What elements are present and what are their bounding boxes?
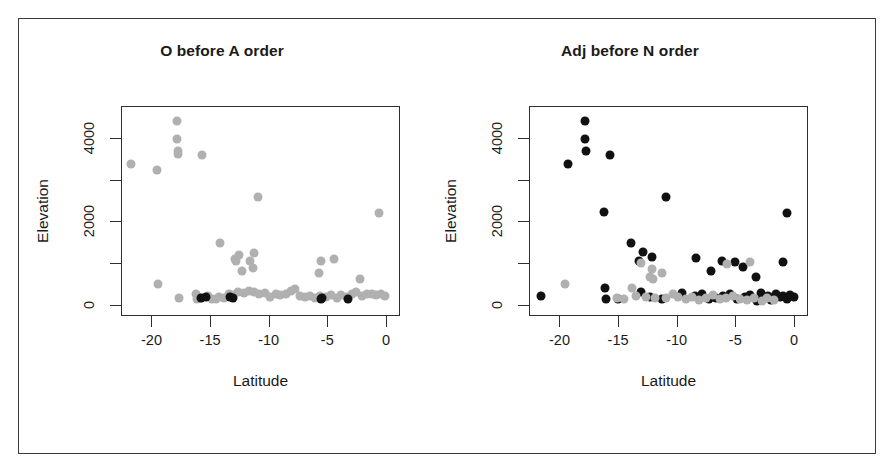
y-axis-tick-label-text: 2000 <box>81 205 97 237</box>
data-point <box>253 192 262 201</box>
panel-title: Adj before N order <box>430 42 830 60</box>
data-point <box>249 263 258 272</box>
data-point <box>175 293 184 302</box>
data-point <box>237 266 246 275</box>
y-axis-tick <box>518 305 529 306</box>
data-point <box>229 293 238 302</box>
y-axis-tick <box>110 263 121 264</box>
data-point <box>605 150 614 159</box>
data-point <box>651 294 660 303</box>
data-point <box>706 266 715 275</box>
data-point <box>627 284 636 293</box>
x-axis-tick-label: 0 <box>382 332 390 348</box>
data-point <box>563 159 572 168</box>
data-point <box>779 258 788 267</box>
data-point <box>649 275 658 284</box>
plot-area <box>121 106 400 316</box>
data-point <box>581 134 590 143</box>
data-point <box>619 295 628 304</box>
data-point <box>355 275 364 284</box>
y-axis-tick-label-text: 4000 <box>81 122 97 154</box>
data-point <box>314 269 323 278</box>
y-axis-tick <box>110 180 121 181</box>
x-axis-tick <box>269 316 270 327</box>
data-point <box>374 209 383 218</box>
data-point <box>561 279 570 288</box>
data-point <box>173 134 182 143</box>
x-axis-tick-label: -15 <box>608 332 629 348</box>
data-point <box>250 249 259 258</box>
data-point <box>642 292 651 301</box>
data-point <box>647 252 656 261</box>
data-point <box>344 295 353 304</box>
y-axis-tick-label-text: 0 <box>81 301 97 309</box>
y-axis-tick <box>110 221 121 222</box>
y-axis-tick-label-text: 4000 <box>489 122 505 154</box>
x-axis-title: Latitude <box>121 372 400 390</box>
x-axis-tick <box>327 316 328 327</box>
data-point <box>318 293 327 302</box>
data-point <box>581 117 590 126</box>
x-axis-tick <box>794 316 795 327</box>
data-point <box>637 259 646 268</box>
x-axis-tick-label: 0 <box>790 332 798 348</box>
data-point <box>789 292 798 301</box>
data-point <box>638 248 647 257</box>
data-point <box>153 166 162 175</box>
y-axis-tick <box>518 180 529 181</box>
x-axis-tick-label: -10 <box>258 332 279 348</box>
data-point <box>173 117 182 126</box>
x-axis-tick-label: -10 <box>666 332 687 348</box>
x-axis-tick <box>210 316 211 327</box>
data-point <box>197 150 206 159</box>
x-axis-tick-label: -5 <box>321 332 334 348</box>
x-axis-tick <box>559 316 560 327</box>
y-axis-title: Elevation <box>34 179 52 243</box>
data-point <box>216 238 225 247</box>
y-axis-tick-label-text: 2000 <box>489 205 505 237</box>
data-point <box>782 209 791 218</box>
data-point <box>752 272 761 281</box>
data-point <box>692 254 701 263</box>
data-point <box>174 149 183 158</box>
panel-adj-before-n: Adj before N order Elevation 020004000-2… <box>430 0 850 436</box>
data-point <box>722 260 731 269</box>
x-axis-tick-label: -20 <box>141 332 162 348</box>
figure-container: O before A order Elevation 020004000-20-… <box>0 0 893 475</box>
data-point <box>658 269 667 278</box>
x-axis-tick <box>151 316 152 327</box>
data-point <box>746 257 755 266</box>
data-point <box>602 295 611 304</box>
x-axis-tick <box>386 316 387 327</box>
data-point <box>661 192 670 201</box>
data-point <box>330 254 339 263</box>
data-point <box>599 208 608 217</box>
data-point <box>127 159 136 168</box>
x-axis-tick <box>618 316 619 327</box>
x-axis-tick-label: -15 <box>200 332 221 348</box>
y-axis-tick <box>110 305 121 306</box>
y-axis-tick <box>518 138 529 139</box>
y-axis-tick <box>518 263 529 264</box>
data-point <box>626 238 635 247</box>
data-point <box>536 291 545 300</box>
data-point <box>202 293 211 302</box>
y-axis-tick-label-text: 0 <box>489 301 505 309</box>
panel-title: O before A order <box>22 42 422 60</box>
data-point <box>380 291 389 300</box>
x-axis-tick <box>677 316 678 327</box>
x-axis-tick-label: -20 <box>549 332 570 348</box>
y-axis-title: Elevation <box>442 179 460 243</box>
x-axis-title: Latitude <box>529 372 808 390</box>
plot-area <box>529 106 808 316</box>
x-axis-tick-label: -5 <box>729 332 742 348</box>
data-point <box>769 295 778 304</box>
data-point <box>317 256 326 265</box>
y-axis-tick <box>518 221 529 222</box>
data-point <box>154 279 163 288</box>
data-point <box>601 284 610 293</box>
y-axis-tick <box>110 138 121 139</box>
x-axis-tick <box>735 316 736 327</box>
panel-o-before-a: O before A order Elevation 020004000-20-… <box>22 0 442 436</box>
data-point <box>231 256 240 265</box>
